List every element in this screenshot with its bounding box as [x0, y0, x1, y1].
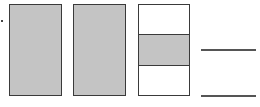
third-part-1 — [139, 5, 189, 34]
bullet-dot — [1, 20, 3, 22]
whole-rectangle-2 — [73, 4, 126, 96]
third-part-3 — [139, 65, 189, 95]
denominator-blank-line[interactable] — [201, 95, 256, 97]
third-part-2-shaded — [139, 34, 189, 64]
whole-rectangle-1 — [9, 4, 62, 96]
numerator-blank-line[interactable] — [201, 49, 256, 51]
thirds-rectangle — [138, 4, 190, 96]
